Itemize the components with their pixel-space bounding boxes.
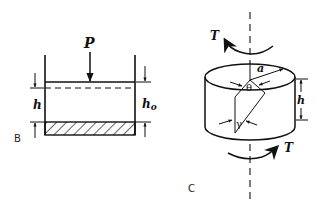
torque-bottom-arrow-icon [228, 147, 277, 159]
height-label: h [297, 94, 305, 107]
torque-top-label: T [210, 29, 220, 43]
height-original-main: h [142, 97, 151, 111]
torque-top-arrow-icon [225, 40, 273, 54]
height-deformed-label: h [33, 98, 42, 112]
panel-b-caption: B [14, 133, 21, 144]
panel-c-torsion: a θ γ h T T C [188, 12, 308, 200]
torque-bottom-label: T [284, 141, 294, 155]
hatched-base [45, 122, 135, 135]
shear-strain-label: γ [236, 118, 242, 129]
load-label: P [83, 35, 95, 51]
height-original-label: ho [142, 97, 157, 112]
panel-c-caption: C [188, 183, 195, 194]
height-original-sub: o [151, 102, 157, 112]
panel-b-compression: P h ho B [14, 35, 157, 144]
diagram-canvas: P h ho B a θ [0, 0, 320, 204]
twist-angle-label: θ [246, 82, 252, 93]
radius-label: a [257, 62, 264, 75]
